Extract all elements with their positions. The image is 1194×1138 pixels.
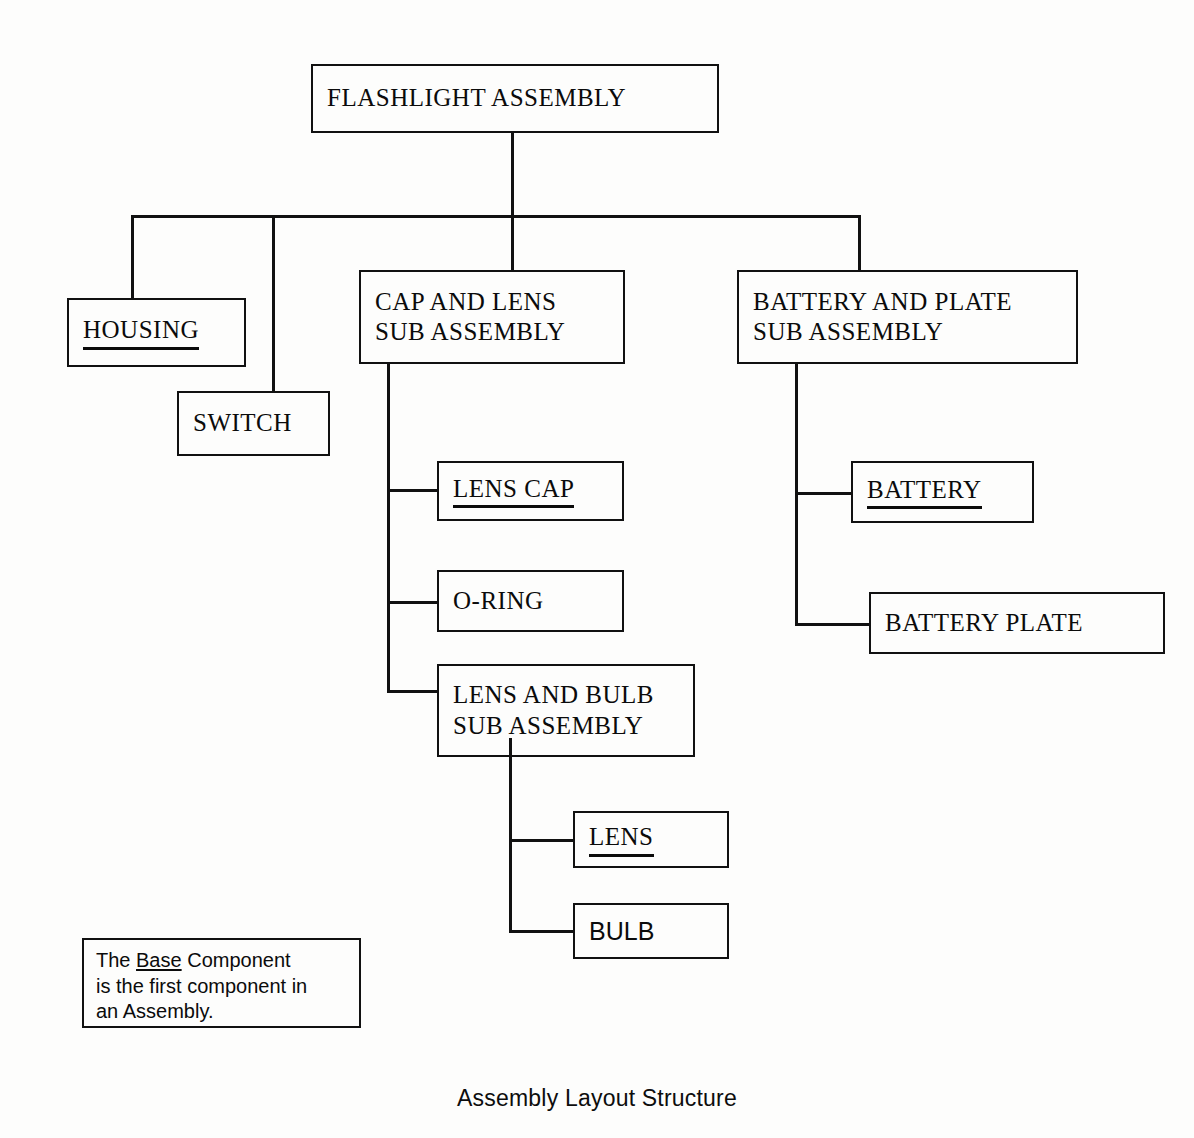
connector-stub-o-ring (387, 601, 439, 604)
assembly-layout-diagram: FLASHLIGHT ASSEMBLY HOUSING SWITCH CAP A… (0, 0, 1194, 1138)
connector-level1-bus (131, 215, 861, 218)
legend-prefix: The (96, 949, 136, 971)
connector-spine-battery-and-plate (795, 364, 798, 626)
connector-stub-battery-plate (795, 623, 871, 626)
node-label: SWITCH (193, 408, 292, 439)
node-label-line1: LENS AND BULB (453, 680, 654, 711)
node-battery-plate[interactable]: BATTERY PLATE (869, 592, 1165, 654)
node-label-line2: SUB ASSEMBLY (753, 317, 943, 348)
legend-suffix: Component (182, 949, 291, 971)
connector-spine-lens-and-bulb (509, 738, 512, 933)
connector-drop-cap-and-lens (511, 215, 514, 270)
node-bulb[interactable]: BULB (573, 903, 729, 959)
node-label-line2: SUB ASSEMBLY (375, 317, 565, 348)
node-switch[interactable]: SWITCH (177, 391, 330, 456)
node-label: FLASHLIGHT ASSEMBLY (327, 83, 626, 114)
node-label: LENS (589, 822, 654, 857)
connector-stub-battery (795, 492, 853, 495)
node-lens[interactable]: LENS (573, 811, 729, 868)
diagram-caption: Assembly Layout Structure (0, 1085, 1194, 1112)
legend-line-3: an Assembly. (96, 999, 349, 1025)
legend-base-component: The Base Component is the first componen… (82, 938, 361, 1028)
connector-stub-bulb (509, 930, 575, 933)
connector-drop-switch (272, 215, 275, 391)
node-lens-cap[interactable]: LENS CAP (437, 461, 624, 521)
legend-line-1: The Base Component (96, 948, 349, 974)
node-battery[interactable]: BATTERY (851, 461, 1034, 523)
node-label: BATTERY PLATE (885, 608, 1083, 639)
node-label-line1: BATTERY AND PLATE (753, 287, 1012, 318)
node-label-line2: SUB ASSEMBLY (453, 711, 643, 742)
connector-stub-lens (509, 839, 575, 842)
node-label: BATTERY (867, 475, 982, 510)
node-cap-and-lens-subassembly[interactable]: CAP AND LENS SUB ASSEMBLY (359, 270, 625, 364)
node-o-ring[interactable]: O-RING (437, 570, 624, 632)
node-label: HOUSING (83, 315, 199, 350)
node-lens-and-bulb-subassembly[interactable]: LENS AND BULB SUB ASSEMBLY (437, 664, 695, 757)
legend-line-2: is the first component in (96, 974, 349, 1000)
node-label-line1: CAP AND LENS (375, 287, 557, 318)
connector-root-stem (511, 133, 514, 217)
node-label: BULB (589, 916, 654, 947)
connector-drop-battery-and-plate (858, 215, 861, 270)
node-label: O-RING (453, 586, 544, 617)
node-label: LENS CAP (453, 474, 574, 509)
node-flashlight-assembly[interactable]: FLASHLIGHT ASSEMBLY (311, 64, 719, 133)
node-housing[interactable]: HOUSING (67, 298, 246, 367)
node-battery-and-plate-subassembly[interactable]: BATTERY AND PLATE SUB ASSEMBLY (737, 270, 1078, 364)
connector-spine-cap-and-lens (387, 364, 390, 690)
connector-stub-lens-and-bulb (387, 690, 439, 693)
legend-emphasis: Base (136, 949, 182, 971)
connector-drop-housing (131, 215, 134, 299)
connector-stub-lens-cap (387, 489, 439, 492)
